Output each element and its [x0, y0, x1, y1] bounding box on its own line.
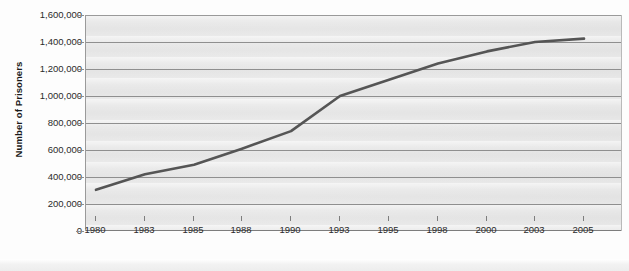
x-tick-label-1983: 1983 — [121, 224, 167, 235]
series-line — [96, 39, 584, 190]
y-tick-label-200000: 200,000 — [12, 198, 82, 209]
x-tick-1993 — [339, 216, 340, 221]
y-tick-label-600000: 600,000 — [12, 144, 82, 155]
y-tick-dash-800000 — [76, 123, 84, 124]
y-tick-label-400000: 400,000 — [12, 171, 82, 182]
x-tick-1983 — [144, 216, 145, 221]
y-tick-dash-200000 — [76, 204, 84, 205]
y-tick-dash-600000 — [76, 150, 84, 151]
series-prisoners — [86, 15, 621, 231]
y-tick-dash-1000000 — [76, 96, 84, 97]
x-tick-1980 — [95, 216, 96, 221]
x-tick-label-1988: 1988 — [218, 224, 264, 235]
x-tick-1988 — [241, 216, 242, 221]
x-tick-1995 — [388, 216, 389, 221]
x-tick-label-2005: 2005 — [560, 224, 606, 235]
y-tick-label-1600000: 1,600,000 — [12, 9, 82, 20]
x-tick-label-2000: 2000 — [463, 224, 509, 235]
y-tick-label-800000: 800,000 — [12, 117, 82, 128]
x-tick-label-1990: 1990 — [267, 224, 313, 235]
y-tick-label-1200000: 1,200,000 — [12, 63, 82, 74]
x-tick-2000 — [486, 216, 487, 221]
page-bottom-band — [0, 259, 629, 271]
y-tick-dash-1400000 — [76, 42, 84, 43]
x-tick-label-1980: 1980 — [72, 224, 118, 235]
prisoners-line-chart: Number of Prisoners 1,600,000 1,400,000 … — [0, 0, 629, 271]
x-tick-label-1993: 1993 — [316, 224, 362, 235]
x-tick-1998 — [437, 216, 438, 221]
x-tick-2005 — [583, 216, 584, 221]
x-tick-label-1995: 1995 — [365, 224, 411, 235]
x-tick-2003 — [534, 216, 535, 221]
x-tick-label-2003: 2003 — [511, 224, 557, 235]
plot-area — [85, 15, 622, 231]
x-tick-label-1998: 1998 — [414, 224, 460, 235]
y-tick-label-1000000: 1,000,000 — [12, 90, 82, 101]
x-tick-1990 — [290, 216, 291, 221]
x-tick-label-1985: 1985 — [170, 224, 216, 235]
x-tick-1985 — [193, 216, 194, 221]
y-tick-label-1400000: 1,400,000 — [12, 36, 82, 47]
y-tick-dash-1200000 — [76, 69, 84, 70]
y-axis-title: Number of Prisoners — [13, 40, 24, 180]
y-tick-dash-1600000 — [76, 15, 84, 16]
y-tick-dash-400000 — [76, 177, 84, 178]
